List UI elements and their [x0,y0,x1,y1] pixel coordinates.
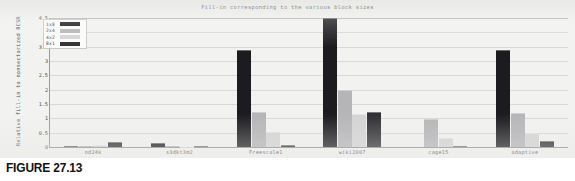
legend-item-label: 8x1 [46,41,59,46]
legend-item-label: 1x8 [46,22,59,27]
bar [439,138,453,147]
bar [93,145,107,147]
y-axis-label: Relative fill-in to nonsectorized BCSR [15,11,21,151]
bar-group [323,18,381,147]
x-tick-label: wiki2007 [309,149,395,155]
y-tick-label: 3 [31,58,48,64]
bar [424,119,438,147]
x-tick-label: Freescale1 [223,149,309,155]
bar-group [151,18,209,147]
legend-color-swatch [60,42,80,46]
bar [194,146,208,147]
bar [108,142,122,147]
y-tick-label: 2 [31,87,48,93]
bar [540,141,554,147]
bar [79,146,93,147]
bar [266,132,280,147]
figure-caption: FIGURE 27.13 [6,160,82,175]
y-tick-label: 0.5 [31,130,48,136]
x-tick-label: s3dkt3m2 [136,149,222,155]
legend-item: 8x1 [46,41,85,47]
y-tick-label: 1.5 [31,101,48,107]
legend-item: 4x2 [46,34,85,40]
x-axis-line [50,147,568,148]
bar [525,133,539,147]
legend-item: 2x4 [46,28,85,34]
bar [352,114,366,147]
bar [367,112,381,147]
legend-item: 1x8 [46,21,85,27]
x-axis-tick-labels: nd24ks3dkt3m2Freescale1wiki2007cage15ada… [50,149,568,158]
chart-bars-layer [50,18,568,147]
y-tick-label: 1 [31,115,48,121]
bar [281,145,295,147]
chart-plot-panel: Fill-in corresponding to the various blo… [0,0,575,158]
legend-color-swatch [60,22,80,26]
bar-group [496,18,554,147]
chart-title: Fill-in corresponding to the various blo… [0,4,575,10]
legend-color-swatch [60,35,80,39]
y-tick-label: 0 [31,144,48,150]
bar [453,146,467,147]
x-tick-label: adaptive [482,149,568,155]
bar [151,143,165,147]
bar [64,146,78,147]
x-tick-label: cage15 [395,149,481,155]
bar-group [237,18,295,147]
legend-item-label: 2x4 [46,28,59,33]
bar-group [410,18,468,147]
chart-legend: 1x82x44x28x1 [43,19,87,49]
y-tick-label: 2.5 [31,72,48,78]
bar [323,18,337,147]
legend-item-label: 4x2 [46,35,59,40]
figure-container: Fill-in corresponding to the various blo… [0,0,575,181]
bar [511,113,525,147]
bar [338,90,352,147]
bar [252,112,266,147]
x-tick-label: nd24k [50,149,136,155]
bar [165,146,179,147]
bar [237,50,251,147]
legend-color-swatch [60,29,80,33]
bar [496,50,510,147]
